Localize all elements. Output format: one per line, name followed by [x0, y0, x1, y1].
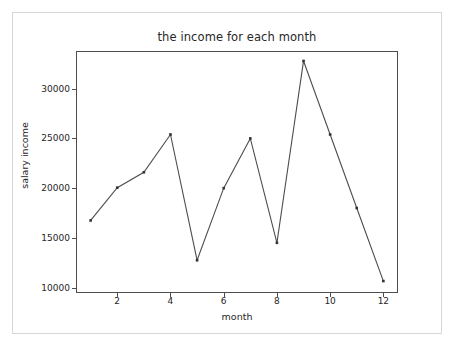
x-axis-label: month	[76, 311, 398, 322]
x-tick-label: 2	[97, 296, 137, 306]
y-tick-label: 25000	[0, 133, 70, 143]
data-point-marker	[89, 219, 92, 222]
x-tick-label: 12	[363, 296, 403, 306]
line-series-layer	[76, 51, 398, 293]
x-tick-mark	[277, 293, 278, 297]
income-markers	[89, 60, 384, 283]
data-point-marker	[302, 60, 305, 63]
y-axis-label: salary income	[19, 96, 30, 216]
y-tick-label: 30000	[0, 84, 70, 94]
data-point-marker	[169, 133, 172, 136]
data-point-marker	[116, 186, 119, 189]
data-point-marker	[249, 137, 252, 140]
data-point-marker	[196, 259, 199, 262]
y-tick-label: 20000	[0, 183, 70, 193]
x-tick-label: 10	[310, 296, 350, 306]
x-tick-label: 4	[150, 296, 190, 306]
figure-canvas: the income for each month salary income …	[0, 0, 456, 349]
x-tick-mark	[117, 293, 118, 297]
x-tick-label: 8	[257, 296, 297, 306]
x-tick-mark	[170, 293, 171, 297]
x-tick-mark	[330, 293, 331, 297]
x-tick-label: 6	[204, 296, 244, 306]
data-point-marker	[276, 242, 279, 245]
data-point-marker	[382, 280, 385, 283]
x-tick-mark	[383, 293, 384, 297]
income-line	[91, 61, 384, 281]
y-tick-label: 15000	[0, 233, 70, 243]
data-point-marker	[329, 133, 332, 136]
x-tick-mark	[224, 293, 225, 297]
y-tick-label: 10000	[0, 283, 70, 293]
data-point-marker	[143, 171, 146, 174]
data-point-marker	[355, 207, 358, 210]
chart-title: the income for each month	[76, 30, 398, 44]
data-point-marker	[222, 187, 225, 190]
